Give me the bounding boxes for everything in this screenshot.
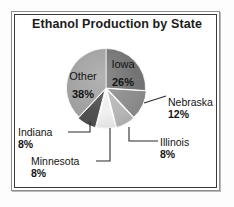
pie-label-minnesota-name: Minnesota xyxy=(31,155,79,167)
pie-label-iowa: Iowa 26% xyxy=(104,54,142,90)
leader-line-minnesota xyxy=(96,128,110,161)
pie-label-other-name: Other xyxy=(69,70,97,82)
pie-label-nebraska-name: Nebraska xyxy=(168,96,213,108)
pie-label-illinois-percent: 8% xyxy=(160,148,189,160)
pie-label-indiana: Indiana 8% xyxy=(18,126,52,150)
leader-line-nebraska xyxy=(144,96,166,103)
pie-label-other-percent: 38% xyxy=(72,88,94,100)
pie-label-indiana-percent: 8% xyxy=(18,138,52,150)
leader-line-indiana xyxy=(68,121,90,132)
pie-label-illinois-name: Illinois xyxy=(160,136,189,148)
pie-label-indiana-name: Indiana xyxy=(18,126,52,138)
pie-label-other: Other 38% xyxy=(62,66,104,102)
pie-label-iowa-name: Iowa xyxy=(111,58,134,70)
chart-panel: Ethanol Production by State xyxy=(0,0,234,207)
pie-label-minnesota: Minnesota 8% xyxy=(31,155,79,179)
pie-label-iowa-percent: 26% xyxy=(112,76,134,88)
pie-label-minnesota-percent: 8% xyxy=(31,167,79,179)
pie-label-nebraska-percent: 12% xyxy=(168,108,213,120)
leader-line-illinois xyxy=(129,127,158,141)
pie-label-illinois: Illinois 8% xyxy=(160,136,189,160)
pie-label-nebraska: Nebraska 12% xyxy=(168,96,213,120)
